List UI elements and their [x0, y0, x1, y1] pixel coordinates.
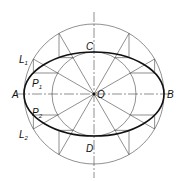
label-p2: P2 [32, 107, 43, 119]
ellipse-construction-diagram: A B C D O L1 L2 P1 P2 [0, 0, 187, 181]
label-c: C [86, 41, 94, 52]
center-point [93, 93, 96, 96]
label-l2: L2 [19, 129, 29, 141]
label-b: B [167, 89, 174, 100]
label-l1: L1 [19, 54, 28, 66]
label-d: D [86, 143, 93, 154]
label-a: A [11, 89, 19, 100]
label-o: O [97, 89, 105, 100]
label-p1: P1 [32, 78, 42, 90]
